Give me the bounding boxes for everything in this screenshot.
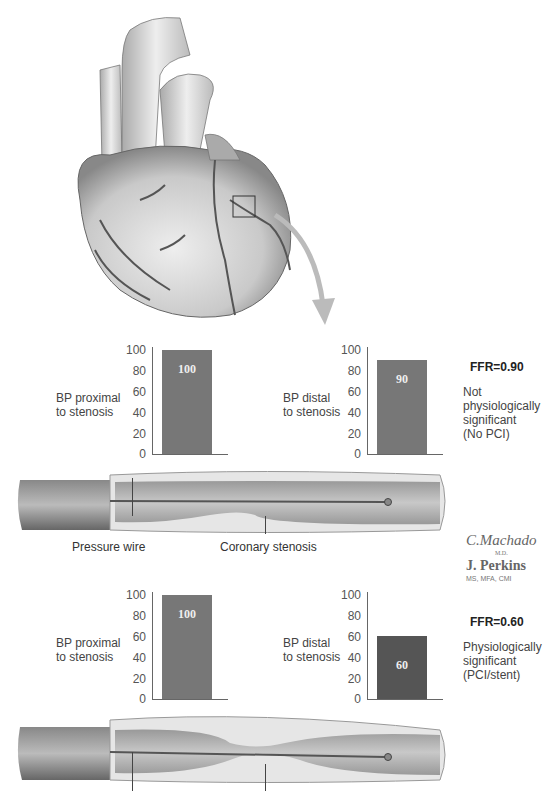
ffr-value-2: FFR=0.60 — [470, 615, 524, 629]
significance-note-1: Not physiologically significant (No PCI) — [463, 385, 540, 441]
bar-proximal-2: 100 — [162, 595, 212, 699]
tick: 0 — [335, 447, 361, 461]
tick: 40 — [335, 651, 361, 665]
arrow-head-icon — [312, 298, 335, 325]
tick: 60 — [120, 630, 146, 644]
tick: 0 — [335, 692, 361, 706]
tick: 80 — [120, 609, 146, 623]
bar-distal-2: 60 — [377, 636, 427, 699]
artist-name: J. Perkins — [466, 558, 526, 574]
bp-proximal-label: BP proximal to stenosis — [56, 391, 120, 419]
bar-distal: 90 — [377, 360, 427, 454]
pressure-wire-leader-2 — [132, 752, 133, 791]
pressure-wire-label: Pressure wire — [72, 540, 145, 554]
tick: 60 — [120, 385, 146, 399]
tick: 80 — [120, 364, 146, 378]
coronary-stenosis-label: Coronary stenosis — [220, 540, 317, 554]
tick: 40 — [335, 406, 361, 420]
chart-proximal-2: 100 80 60 40 20 0 100 — [120, 588, 230, 703]
tick: 0 — [120, 447, 146, 461]
tick: 60 — [335, 385, 361, 399]
heart-illustration — [60, 0, 360, 330]
chart-distal-1: 100 80 60 40 20 0 90 — [335, 343, 445, 458]
vessel-mild-stenosis — [10, 460, 460, 535]
artist-credentials: MS, MFA, CMI — [466, 575, 512, 582]
bp-proximal-label-2: BP proximal to stenosis — [56, 636, 120, 664]
bar-value: 100 — [162, 607, 212, 622]
tick: 20 — [120, 427, 146, 441]
tick: 80 — [335, 364, 361, 378]
bar-value: 100 — [162, 362, 212, 377]
bar-value: 60 — [377, 658, 427, 673]
tick: 100 — [120, 588, 146, 602]
bp-distal-label: BP distal to stenosis — [283, 391, 340, 419]
tick: 20 — [335, 427, 361, 441]
bar-value: 90 — [377, 372, 427, 387]
significance-note-2: Physiologically significant (PCI/stent) — [463, 640, 542, 682]
tick: 40 — [120, 406, 146, 420]
tick: 40 — [120, 651, 146, 665]
vessel-severe-stenosis — [10, 705, 460, 785]
stenosis-leader — [265, 516, 266, 534]
pressure-wire-leader — [132, 478, 133, 516]
tick: 100 — [120, 343, 146, 357]
chart-distal-2: 100 80 60 40 20 0 60 — [335, 588, 445, 703]
tick: 20 — [120, 672, 146, 686]
bar-proximal: 100 — [162, 350, 212, 454]
stenosis-leader-2 — [265, 764, 266, 791]
chart-proximal-1: 100 80 60 40 20 0 100 — [120, 343, 230, 458]
ffr-value-1: FFR=0.90 — [470, 360, 524, 374]
signature: C.Machado — [466, 532, 536, 549]
tick: 0 — [120, 692, 146, 706]
bp-distal-label-2: BP distal to stenosis — [283, 636, 340, 664]
tick: 60 — [335, 630, 361, 644]
signature-sub: M.D. — [495, 550, 508, 556]
tick: 80 — [335, 609, 361, 623]
tick: 100 — [335, 343, 361, 357]
tick: 20 — [335, 672, 361, 686]
tick: 100 — [335, 588, 361, 602]
